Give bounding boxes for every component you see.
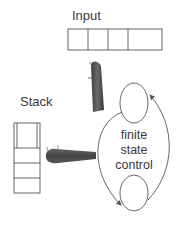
control-label-line-1: finite [104, 128, 164, 143]
control-label-line-3: control [104, 158, 164, 173]
input-head-icon [88, 62, 104, 112]
input-tape [68, 29, 162, 50]
pushdown-automaton-diagram: Input Stack finite state control [0, 0, 177, 226]
finite-state-control-label: finite state control [104, 128, 164, 173]
diagram-shapes [0, 0, 177, 226]
stack-head-icon [46, 145, 96, 163]
control-label-line-2: state [104, 143, 164, 158]
input-label: Input [72, 8, 101, 23]
stack-cells [14, 123, 40, 193]
stack-label: Stack [20, 94, 53, 109]
